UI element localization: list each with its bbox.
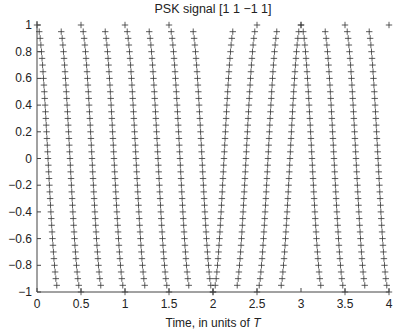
- x-tick-label: 1.5: [161, 297, 178, 311]
- y-tick-label: 0: [25, 152, 32, 166]
- y-tick-label: 1: [25, 18, 32, 32]
- y-tick-label: −0.4: [8, 205, 32, 219]
- y-tick-label: 0.4: [15, 98, 32, 112]
- x-tick-label: 3.5: [337, 297, 354, 311]
- x-tick-label: 0.5: [73, 297, 90, 311]
- chart-title: PSK signal [1 1 −1 1]: [154, 2, 271, 16]
- y-tick-label: 0.6: [15, 71, 32, 85]
- y-tick-label: 0.8: [15, 45, 32, 59]
- y-tick-label: −0.8: [8, 258, 32, 272]
- y-tick-label: −0.2: [8, 178, 32, 192]
- x-tick-label: 0: [34, 297, 41, 311]
- x-tick-label: 4: [386, 297, 393, 311]
- x-axis-label: Time, in units of T: [166, 316, 263, 330]
- y-tick-label: −0.6: [8, 232, 32, 246]
- plot-markers: [34, 22, 392, 295]
- y-axis: 10.80.60.40.20−0.2−0.4−0.6−0.8−1: [8, 18, 41, 299]
- y-tick-label: −1: [18, 285, 32, 299]
- x-tick-label: 3: [298, 297, 305, 311]
- x-tick-label: 1: [122, 297, 129, 311]
- y-tick-label: 0.2: [15, 125, 32, 139]
- x-tick-label: 2.5: [249, 297, 266, 311]
- psk-signal-chart: PSK signal [1 1 −1 1] 10.80.60.40.20−0.2…: [0, 0, 403, 334]
- x-axis: 00.511.522.533.54: [34, 288, 393, 311]
- x-tick-label: 2: [210, 297, 217, 311]
